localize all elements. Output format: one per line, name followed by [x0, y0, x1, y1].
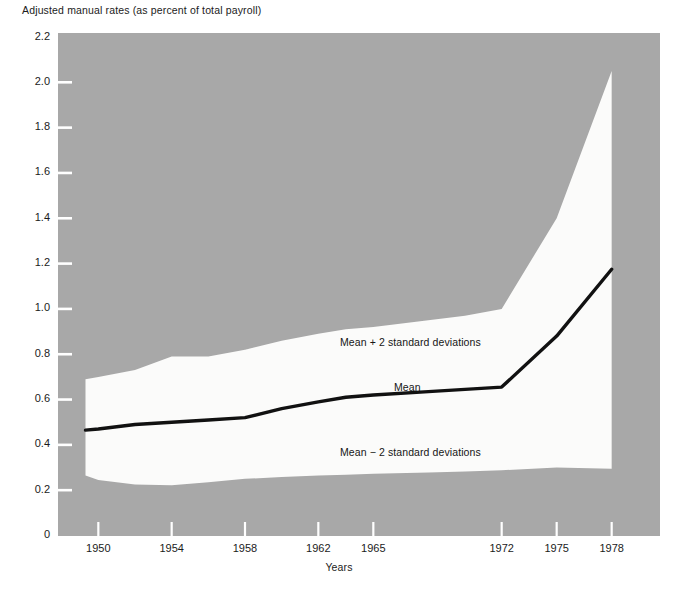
- x-tick-label: 1965: [350, 542, 396, 554]
- annotation-lower-band: Mean − 2 standard deviations: [340, 446, 481, 458]
- y-tick-label: 0.6: [16, 392, 50, 404]
- y-tick-label: 0: [16, 528, 50, 540]
- plot-canvas: [0, 0, 678, 591]
- x-tick-label: 1975: [534, 542, 580, 554]
- y-tick-label: 1.0: [16, 301, 50, 313]
- y-tick-label: 1.4: [16, 211, 50, 223]
- x-tick-label: 1950: [75, 542, 121, 554]
- x-tick-label: 1958: [222, 542, 268, 554]
- annotation-upper-band: Mean + 2 standard deviations: [340, 336, 481, 348]
- x-tick-label: 1954: [149, 542, 195, 554]
- y-tick-label: 1.6: [16, 165, 50, 177]
- y-tick-label: 2.2: [16, 30, 50, 42]
- x-tick-label: 1962: [295, 542, 341, 554]
- y-tick-label: 0.4: [16, 437, 50, 449]
- x-tick-label: 1978: [589, 542, 635, 554]
- y-tick-label: 0.8: [16, 347, 50, 359]
- y-tick-label: 1.2: [16, 256, 50, 268]
- annotation-mean-line: Mean: [394, 381, 421, 393]
- x-tick-label: 1972: [479, 542, 525, 554]
- y-tick-label: 2.0: [16, 75, 50, 87]
- y-tick-label: 1.8: [16, 120, 50, 132]
- chart-figure: Adjusted manual rates (as percent of tot…: [0, 0, 678, 591]
- x-axis-title: Years: [0, 561, 678, 573]
- y-tick-label: 0.2: [16, 483, 50, 495]
